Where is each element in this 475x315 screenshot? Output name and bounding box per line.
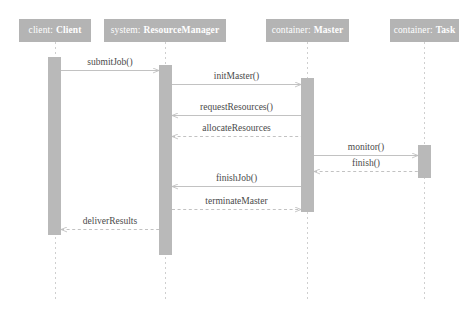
lifeline-classifier-master: Master (314, 26, 344, 36)
message-label-8: deliverResults (83, 217, 137, 227)
lifeline-role-task: container: (394, 26, 433, 36)
activation-bar-task (418, 145, 431, 178)
message-label-1: initMaster() (214, 72, 259, 82)
message-label-3: allocateResources (202, 124, 271, 134)
message-label-4: monitor() (348, 143, 384, 153)
sequence-diagram-canvas: client:Clientsystem:ResourceManagerconta… (0, 0, 475, 315)
lifeline-role-client: client: (29, 26, 53, 36)
lifeline-classifier-resourcemanager: ResourceManager (144, 26, 220, 36)
lifeline-role-master: container: (272, 26, 311, 36)
message-label-7: terminateMaster (205, 197, 267, 207)
lifeline-classifier-client: Client (56, 26, 81, 36)
message-label-5: finish() (352, 159, 380, 169)
lifeline-header-resourcemanager[interactable]: system:ResourceManager (104, 19, 226, 42)
lifeline-role-resourcemanager: system: (111, 26, 141, 36)
activation-bar-client (48, 57, 61, 235)
lifeline-classifier-task: Task (436, 26, 456, 36)
lifeline-header-task[interactable]: container:Task (390, 19, 459, 42)
activation-bar-resourcemanager (159, 65, 172, 255)
activation-bar-master (301, 78, 314, 212)
lifeline-header-client[interactable]: client:Client (19, 19, 91, 42)
lifeline-header-master[interactable]: container:Master (266, 19, 349, 42)
message-label-6: finishJob() (216, 174, 257, 184)
sequence-diagram-graphics (0, 0, 475, 315)
message-label-2: requestResources() (200, 103, 273, 113)
message-label-0: submitJob() (87, 58, 132, 68)
